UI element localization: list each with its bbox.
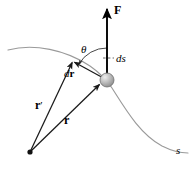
angle-theta-label: θ	[81, 44, 86, 55]
ds-s-part: s	[122, 52, 126, 64]
position-r-prime-label: r′	[35, 99, 43, 111]
diagram-canvas	[0, 0, 193, 172]
force-label: F	[114, 4, 121, 16]
origin-point	[27, 149, 32, 154]
path-parameter-s-label: s	[176, 145, 180, 156]
displacement-dr-label: dr	[64, 68, 74, 79]
physics-work-diagram: F θ ds dr r′ r s	[0, 0, 193, 172]
dr-r-part: r	[70, 67, 75, 79]
r-prime-mark: ′	[40, 99, 42, 111]
position-r-label: r	[64, 114, 69, 126]
particle-sphere	[100, 73, 114, 87]
arc-length-ds-label: ds	[116, 53, 126, 64]
